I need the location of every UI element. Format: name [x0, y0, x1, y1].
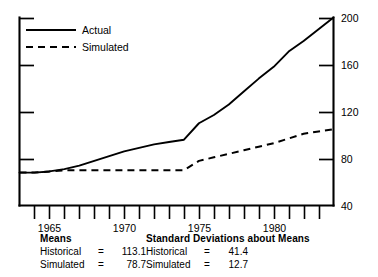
chart-legend: Actual Simulated	[26, 24, 129, 53]
stats-row: Historical=113.1	[40, 245, 146, 258]
stats-row-value: 78.7	[112, 258, 146, 271]
y-tick-label: 40	[341, 200, 353, 212]
y-tick-label: 120	[341, 106, 359, 118]
stats-column-means: Means Historical=113.1 Simulated=78.7	[40, 232, 146, 271]
stats-row-equals: =	[98, 245, 112, 258]
chart-figure: 200 160 120 80 40 1965 1970 1975 1980 Ac…	[0, 0, 378, 277]
legend-label-actual: Actual	[82, 24, 111, 36]
y-tick-label: 80	[341, 153, 353, 165]
stats-row: Simulated=12.7	[146, 258, 310, 271]
series-line-simulated	[20, 129, 334, 172]
stats-row-equals: =	[204, 245, 218, 258]
y-tick-label: 160	[341, 59, 359, 71]
stats-column-stddev: Standard Deviations about Means Historic…	[146, 232, 310, 271]
statistics-caption: Means Historical=113.1 Simulated=78.7 St…	[0, 232, 378, 277]
stats-row-value: 12.7	[218, 258, 248, 271]
right-y-ticks	[319, 19, 334, 160]
stats-row-value: 41.4	[218, 245, 248, 258]
stats-row-label: Historical	[40, 245, 98, 258]
stats-row: Historical=41.4	[146, 245, 310, 258]
stats-row-label: Simulated	[146, 258, 204, 271]
legend-label-simulated: Simulated	[82, 41, 129, 53]
stats-row: Simulated=78.7	[40, 258, 146, 271]
stats-row-equals: =	[98, 258, 112, 271]
stats-row-equals: =	[204, 258, 218, 271]
stats-heading-means: Means	[40, 232, 146, 245]
series-line-actual	[20, 18, 334, 173]
left-y-ticks	[20, 19, 35, 160]
stats-row-label: Simulated	[40, 258, 98, 271]
axes-group	[20, 18, 334, 206]
stats-row-label: Historical	[146, 245, 204, 258]
y-tick-label: 200	[341, 12, 359, 24]
stats-row-value: 113.1	[112, 245, 146, 258]
y-tick-labels: 200 160 120 80 40	[341, 12, 359, 212]
stats-heading-stddev: Standard Deviations about Means	[146, 232, 310, 245]
x-ticks	[35, 206, 320, 220]
